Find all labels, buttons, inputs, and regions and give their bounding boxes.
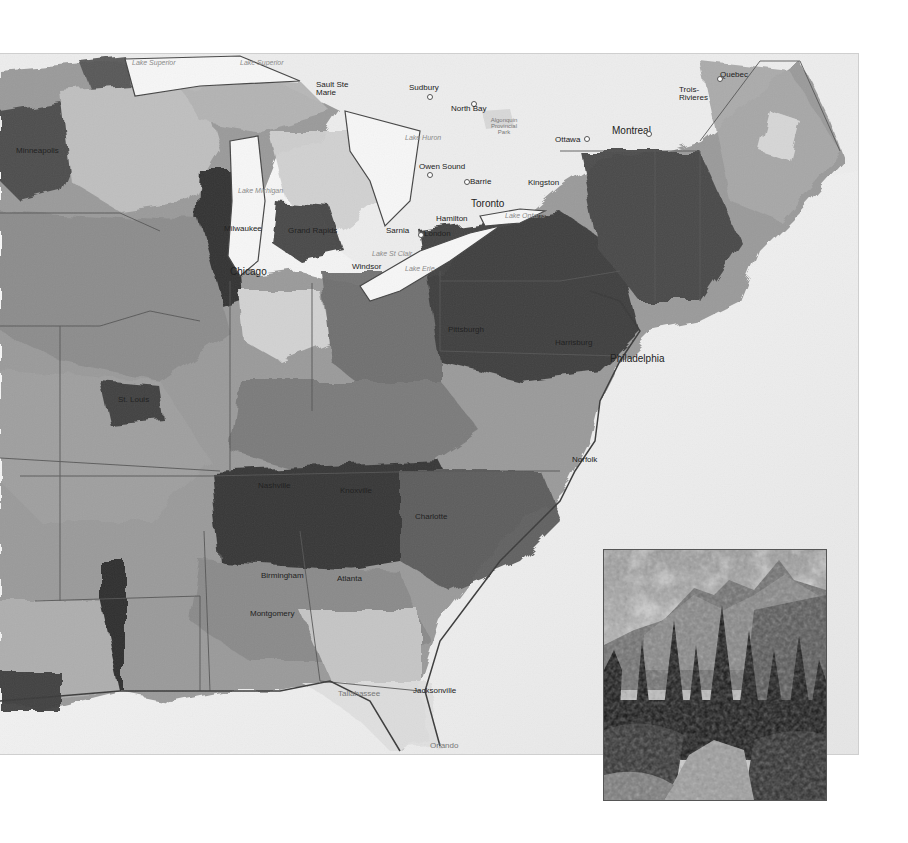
label-sault-ste-marie: Sault Ste Marie xyxy=(316,81,356,97)
label-birmingham: Birmingham xyxy=(261,572,304,580)
label-sarnia: Sarnia xyxy=(386,227,409,235)
label-atlanta: Atlanta xyxy=(337,575,362,583)
label-ottawa: Ottawa xyxy=(555,136,580,144)
label-philadelphia: Philadelphia xyxy=(610,354,665,364)
label-kingston: Kingston xyxy=(528,179,559,187)
city-marker xyxy=(646,131,652,137)
label-lake-huron: Lake Huron xyxy=(405,134,441,141)
label-grand-rapids: Grand Rapids xyxy=(288,227,337,235)
label-hamilton: Hamilton xyxy=(436,215,468,223)
label-lake-superior: Lake Superior xyxy=(240,59,284,66)
label-tallahassee: Tallahassee xyxy=(338,690,380,698)
label-windsor: Windsor xyxy=(352,263,381,271)
label-minneapolis: Minneapolis xyxy=(16,147,59,155)
label-sudbury: Sudbury xyxy=(409,84,439,92)
label-st-louis: St. Louis xyxy=(118,396,149,404)
mountain-forest-photo xyxy=(604,550,826,800)
label-lake-st-clair: Lake St Clair xyxy=(372,250,412,257)
label-orlando: Orlando xyxy=(430,742,458,750)
label-jacksonville: Jacksonville xyxy=(413,687,456,695)
city-marker xyxy=(427,172,433,178)
city-marker xyxy=(427,94,433,100)
label-milwaukee: Milwaukee xyxy=(224,225,262,233)
label-lake-superior-west: Lake Superior xyxy=(132,59,176,66)
label-lake-erie: Lake Erie xyxy=(405,265,435,272)
label-lake-ontario: Lake Ontario xyxy=(505,212,545,219)
label-trois-rivieres: Trois-Rivieres xyxy=(679,86,719,102)
label-algonquin-park: Algonquin Provincial Park xyxy=(487,117,521,135)
label-harrisburg: Harrisburg xyxy=(555,339,592,347)
city-marker xyxy=(584,136,590,142)
label-charlotte: Charlotte xyxy=(415,513,447,521)
label-north-bay: North Bay xyxy=(451,105,487,113)
label-lake-michigan: Lake Michigan xyxy=(238,187,283,194)
label-owen-sound: Owen Sound xyxy=(419,163,465,171)
label-knoxville: Knoxville xyxy=(340,487,372,495)
label-barrie: Barrie xyxy=(470,178,491,186)
label-quebec: Quebec xyxy=(720,71,748,79)
label-toronto: Toronto xyxy=(471,199,504,209)
label-norfolk: Norfolk xyxy=(572,456,597,464)
inset-photo-mountain-forest xyxy=(603,549,827,801)
label-london: London xyxy=(424,230,451,238)
label-nashville: Nashville xyxy=(258,482,290,490)
label-pittsburgh: Pittsburgh xyxy=(448,326,484,334)
label-chicago: Chicago xyxy=(230,267,267,277)
label-montgomery: Montgomery xyxy=(250,610,294,618)
